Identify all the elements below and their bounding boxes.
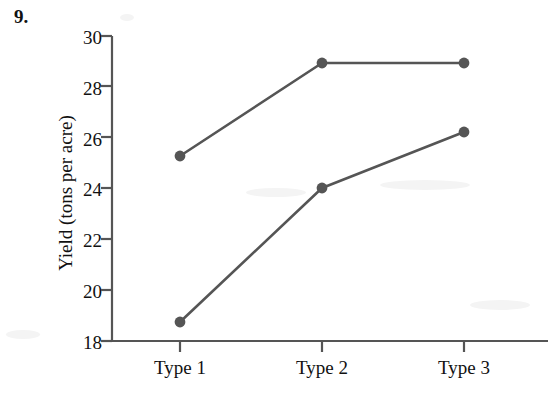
line-chart-plot xyxy=(0,0,552,397)
data-point-upper-type-2 xyxy=(317,58,328,69)
series-upper xyxy=(175,58,470,162)
data-point-lower-type-2 xyxy=(317,183,328,194)
data-point-lower-type-3 xyxy=(459,127,470,138)
series-lower xyxy=(175,127,470,328)
data-point-upper-type-3 xyxy=(459,58,470,69)
data-point-lower-type-1 xyxy=(175,317,186,328)
y-axis-ticks xyxy=(101,36,112,341)
data-point-upper-type-1 xyxy=(175,151,186,162)
x-axis-ticks xyxy=(180,341,464,352)
figure-container: 9. Yield (tons per acre) 30 28 26 24 22 … xyxy=(0,0,552,397)
